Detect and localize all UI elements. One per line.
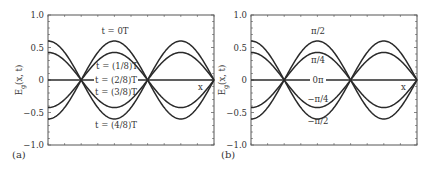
y-tick-label: −0.5 (226, 108, 247, 118)
panel-b: −1.0−0.500.51.0Eg(x, t)π/2π/40π−π/4−π/2x… (217, 10, 417, 160)
y-axis-label: Eg(x, t) (217, 65, 230, 96)
y-tick-label: 0 (242, 75, 247, 85)
series-label: t = 0T (101, 26, 128, 36)
y-tick-label: 0.5 (30, 43, 44, 53)
series-label: −π/4 (308, 94, 329, 104)
panel-label: (a) (12, 149, 26, 160)
panel-a: −1.0−0.500.51.0Eg(x, t)t = 0Tt = (1/8)Tt… (12, 10, 214, 160)
y-tick-label: 0 (39, 75, 44, 85)
series-label: t = (1/8)T (96, 61, 138, 71)
x-axis-label: x (401, 82, 406, 92)
series-label: π/2 (311, 26, 325, 36)
y-tick-label: −1.0 (23, 140, 44, 150)
series-label: t = (4/8)T (95, 120, 137, 130)
y-axis-label: Eg(x, t) (14, 65, 27, 96)
y-tick-label: 0.5 (233, 43, 247, 53)
figure: −1.0−0.500.51.0Eg(x, t)t = 0Tt = (1/8)Tt… (0, 0, 436, 174)
series-label: π/4 (311, 55, 325, 65)
y-axis-label-args: (x, t) (217, 65, 227, 85)
y-tick-label: −0.5 (23, 108, 44, 118)
y-tick-label: 1.0 (233, 10, 247, 20)
series-label: −π/2 (308, 116, 329, 126)
panel-label: (b) (221, 149, 235, 160)
x-axis-label: x (198, 82, 203, 92)
series-label: 0π (313, 75, 324, 85)
series-label: t = (3/8)T (95, 87, 137, 97)
series-label: t = (2/8)T (95, 75, 137, 85)
y-tick-label: 1.0 (30, 10, 44, 20)
y-axis-label-args: (x, t) (14, 65, 24, 85)
